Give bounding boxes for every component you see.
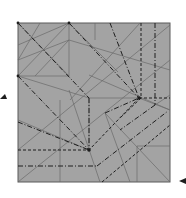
node-left-edge (17, 75, 20, 78)
node-center (87, 148, 91, 152)
left-arrow-marker-icon (0, 94, 7, 99)
node-right (137, 96, 141, 100)
bottom-right-arrow-marker-icon (179, 178, 186, 184)
crease-pattern-diagram (0, 0, 186, 198)
node-top-left (17, 22, 20, 25)
node-top-edge (68, 22, 71, 25)
